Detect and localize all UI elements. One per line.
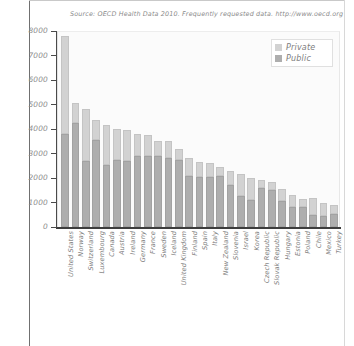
bar-sweden[interactable] — [154, 141, 162, 227]
y-tick-label: 2000 — [28, 173, 48, 182]
x-tick-label: Mexico — [325, 231, 333, 255]
bar-hungary[interactable] — [278, 189, 286, 227]
bar-segment-private — [134, 134, 142, 156]
bar-segment-private — [185, 158, 193, 175]
bar-segment-public — [144, 156, 152, 227]
y-tick-label: 8000 — [28, 26, 48, 35]
x-tick-label: Finland — [191, 231, 199, 256]
bar-segment-public — [216, 176, 224, 227]
bar-korea[interactable] — [247, 178, 255, 227]
bar-segment-public — [320, 216, 328, 227]
bar-slovak-republic[interactable] — [268, 182, 276, 227]
x-tick-label: Ireland — [129, 231, 137, 255]
bar-segment-private — [289, 195, 297, 207]
bar-segment-public — [330, 214, 338, 227]
bar-segment-public — [92, 140, 100, 227]
bar-slovenia[interactable] — [227, 171, 235, 227]
bar-segment-public — [206, 177, 214, 227]
bar-segment-public — [113, 160, 121, 227]
bar-segment-public — [165, 158, 173, 227]
bar-luxembourg[interactable] — [92, 120, 100, 227]
y-tick-mark — [51, 178, 57, 179]
bar-austria[interactable] — [113, 129, 121, 227]
bar-poland[interactable] — [299, 199, 307, 227]
x-tick-label: Slovenia — [232, 231, 240, 260]
y-tick-mark — [51, 153, 57, 154]
bar-canada[interactable] — [103, 125, 111, 227]
legend-swatch-private — [275, 44, 282, 51]
legend-item-public[interactable]: Public — [275, 53, 329, 64]
bar-segment-private — [278, 189, 286, 201]
bar-segment-public — [289, 207, 297, 227]
bar-segment-public — [278, 201, 286, 227]
bar-switzerland[interactable] — [82, 109, 90, 227]
y-tick-mark — [51, 227, 57, 228]
x-tick-label: Korea — [253, 231, 261, 250]
bar-segment-private — [154, 141, 162, 156]
x-tick-label: Turkey — [335, 231, 343, 254]
y-tick-label: 4000 — [28, 124, 48, 133]
bar-segment-private — [165, 141, 173, 158]
bar-segment-private — [247, 178, 255, 200]
y-tick-mark — [51, 104, 57, 105]
chart-page: Source: OECD Health Data 2010. Frequentl… — [0, 0, 354, 346]
legend-label-private: Private — [286, 43, 315, 52]
bar-finland[interactable] — [185, 158, 193, 227]
x-tick-label: Czech Republic — [263, 231, 271, 283]
bar-segment-private — [227, 171, 235, 186]
x-tick-label: Slovak Republic — [273, 231, 281, 285]
bar-segment-private — [330, 205, 338, 214]
bar-italy[interactable] — [206, 163, 214, 227]
bar-turkey[interactable] — [330, 205, 338, 227]
y-tick-mark — [51, 202, 57, 203]
legend-swatch-public — [275, 55, 282, 62]
bar-united-kingdom[interactable] — [175, 149, 183, 227]
bar-france[interactable] — [144, 135, 152, 227]
bar-united-states[interactable] — [61, 36, 69, 227]
bar-czech-republic[interactable] — [258, 180, 266, 227]
bar-new-zealand[interactable] — [216, 167, 224, 227]
bar-segment-private — [175, 149, 183, 160]
bar-segment-private — [237, 174, 245, 196]
x-tick-label: United Kingdom — [180, 231, 188, 285]
x-tick-label: Spain — [201, 231, 209, 250]
bar-segment-public — [258, 188, 266, 227]
bar-segment-public — [82, 161, 90, 227]
bar-segment-public — [103, 165, 111, 227]
bar-mexico[interactable] — [320, 203, 328, 228]
legend-item-private[interactable]: Private — [275, 42, 329, 53]
bar-segment-public — [134, 156, 142, 227]
bar-segment-public — [154, 156, 162, 227]
figure-border-right — [344, 0, 345, 346]
x-tick-label: Canada — [108, 231, 116, 257]
bar-segment-public — [196, 177, 204, 227]
x-tick-label: New Zealand — [222, 231, 230, 275]
bar-segment-private — [92, 120, 100, 140]
bar-segment-public — [227, 185, 235, 227]
bar-segment-public — [247, 200, 255, 227]
bar-segment-private — [258, 180, 266, 187]
x-tick-label: Norway — [77, 231, 85, 257]
bar-spain[interactable] — [196, 162, 204, 227]
x-tick-label: Italy — [211, 231, 219, 246]
bar-segment-private — [216, 167, 224, 176]
y-tick-mark — [51, 55, 57, 56]
bar-israel[interactable] — [237, 174, 245, 227]
x-tick-label: Iceland — [170, 231, 178, 256]
bar-iceland[interactable] — [165, 141, 173, 227]
bar-germany[interactable] — [134, 134, 142, 227]
bar-estonia[interactable] — [289, 195, 297, 227]
bar-norway[interactable] — [72, 103, 80, 227]
y-tick-label: 1000 — [28, 198, 48, 207]
bar-segment-public — [185, 176, 193, 227]
bar-segment-private — [206, 163, 214, 176]
bar-segment-public — [72, 123, 80, 227]
x-tick-label: Luxembourg — [98, 231, 106, 274]
bar-segment-private — [144, 135, 152, 156]
x-axis-line — [56, 227, 341, 229]
bar-ireland[interactable] — [123, 130, 131, 227]
y-tick-mark — [51, 80, 57, 81]
chart-title: Source: OECD Health Data 2010. Frequentl… — [70, 10, 345, 18]
bar-chile[interactable] — [309, 198, 317, 227]
bar-segment-private — [309, 198, 317, 215]
